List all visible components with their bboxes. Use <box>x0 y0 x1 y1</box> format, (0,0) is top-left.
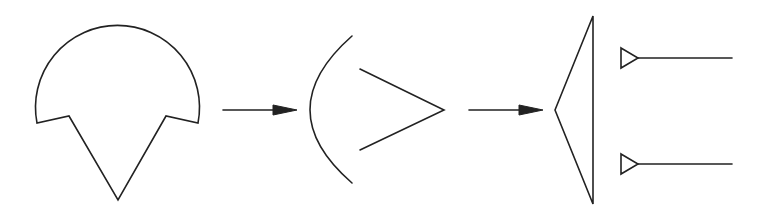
arrow-2-icon <box>469 105 543 115</box>
stage-2-arc-chevron <box>310 36 444 183</box>
antenna-bottom-icon <box>621 154 732 174</box>
stage-1-notched-dome <box>35 25 199 200</box>
stage-3-triangle <box>555 16 593 204</box>
diagram-canvas <box>0 0 763 210</box>
antenna-top-icon <box>621 48 732 68</box>
arrow-1-icon <box>223 105 297 115</box>
